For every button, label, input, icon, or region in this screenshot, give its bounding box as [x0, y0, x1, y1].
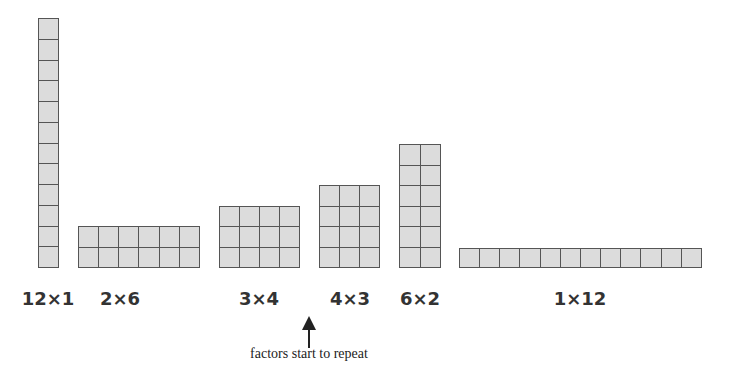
grid-cell	[360, 248, 379, 268]
grid-cell	[400, 207, 420, 227]
grid-cell	[421, 145, 441, 165]
grid-cell	[240, 227, 259, 246]
grid-cell	[119, 248, 138, 268]
array-label: 4×3	[330, 288, 370, 309]
grid-cell	[39, 206, 58, 226]
array-label: 12×1	[22, 288, 75, 309]
grid-cell	[160, 227, 179, 247]
grid-cell	[601, 249, 620, 267]
grid-cell	[421, 227, 441, 247]
annotation-text: factors start to repeat	[250, 346, 368, 362]
grid-cell	[139, 248, 158, 268]
grid-cell	[400, 166, 420, 186]
grid-cell	[99, 248, 118, 268]
grid-cell	[79, 227, 98, 247]
array-6x2	[399, 144, 441, 268]
grid-cell	[180, 227, 199, 247]
grid-cell	[320, 227, 339, 247]
grid-cell	[320, 248, 339, 268]
grid-cell	[421, 186, 441, 206]
grid-cell	[682, 249, 701, 267]
array-label: 2×6	[100, 288, 140, 309]
up-arrow-icon	[302, 316, 316, 348]
grid-cell	[360, 207, 379, 227]
grid-cell	[340, 227, 359, 247]
grid-cell	[400, 145, 420, 165]
array-label: 6×2	[400, 288, 440, 309]
grid-cell	[260, 207, 279, 226]
grid-cell	[119, 227, 138, 247]
grid-cell	[581, 249, 600, 267]
grid-cell	[280, 227, 299, 246]
grid-cell	[39, 164, 58, 184]
array-2x6	[78, 226, 200, 268]
grid-cell	[39, 123, 58, 143]
grid-cell	[280, 207, 299, 226]
grid-cell	[240, 248, 259, 267]
grid-cell	[400, 186, 420, 206]
grid-cell	[400, 227, 420, 247]
grid-cell	[39, 40, 58, 60]
grid-cell	[39, 102, 58, 122]
grid-cell	[280, 248, 299, 267]
grid-cell	[400, 248, 420, 268]
array-1x12	[459, 248, 702, 268]
grid-cell	[220, 248, 239, 267]
grid-cell	[180, 248, 199, 268]
grid-cell	[39, 185, 58, 205]
grid-cell	[39, 19, 58, 39]
grid-cell	[421, 248, 441, 268]
grid-cell	[139, 227, 158, 247]
grid-cell	[541, 249, 560, 267]
grid-cell	[561, 249, 580, 267]
grid-cell	[340, 186, 359, 206]
grid-cell	[662, 249, 681, 267]
grid-cell	[240, 207, 259, 226]
grid-cell	[99, 227, 118, 247]
grid-cell	[480, 249, 499, 267]
grid-cell	[421, 207, 441, 227]
array-label: 3×4	[239, 288, 279, 309]
grid-cell	[220, 227, 239, 246]
grid-cell	[260, 227, 279, 246]
grid-cell	[220, 207, 239, 226]
grid-cell	[160, 248, 179, 268]
grid-cell	[500, 249, 519, 267]
grid-cell	[39, 81, 58, 101]
grid-cell	[520, 249, 539, 267]
array-4x3	[319, 185, 380, 268]
grid-cell	[360, 227, 379, 247]
grid-cell	[39, 247, 58, 267]
grid-cell	[421, 166, 441, 186]
grid-cell	[39, 144, 58, 164]
grid-cell	[360, 186, 379, 206]
array-label: 1×12	[554, 288, 607, 309]
grid-cell	[340, 207, 359, 227]
grid-cell	[39, 227, 58, 247]
grid-cell	[460, 249, 479, 267]
grid-cell	[320, 207, 339, 227]
grid-cell	[621, 249, 640, 267]
grid-cell	[260, 248, 279, 267]
grid-cell	[641, 249, 660, 267]
grid-cell	[79, 248, 98, 268]
grid-cell	[39, 61, 58, 81]
grid-cell	[340, 248, 359, 268]
array-3x4	[219, 206, 300, 268]
grid-cell	[320, 186, 339, 206]
array-12x1	[38, 18, 59, 268]
